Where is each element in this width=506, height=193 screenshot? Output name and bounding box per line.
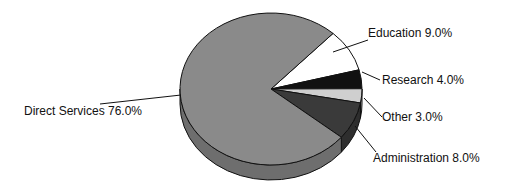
leader-line: [364, 98, 382, 117]
label-other: Other 3.0%: [382, 110, 443, 124]
label-administration: Administration 8.0%: [373, 151, 480, 165]
label-education: Education 9.0%: [368, 26, 452, 40]
leader-line: [355, 126, 376, 152]
leader-line: [362, 72, 380, 80]
leader-line: [100, 95, 181, 104]
label-direct-services: Direct Services 76.0%: [24, 104, 142, 118]
label-research: Research 4.0%: [382, 73, 464, 87]
